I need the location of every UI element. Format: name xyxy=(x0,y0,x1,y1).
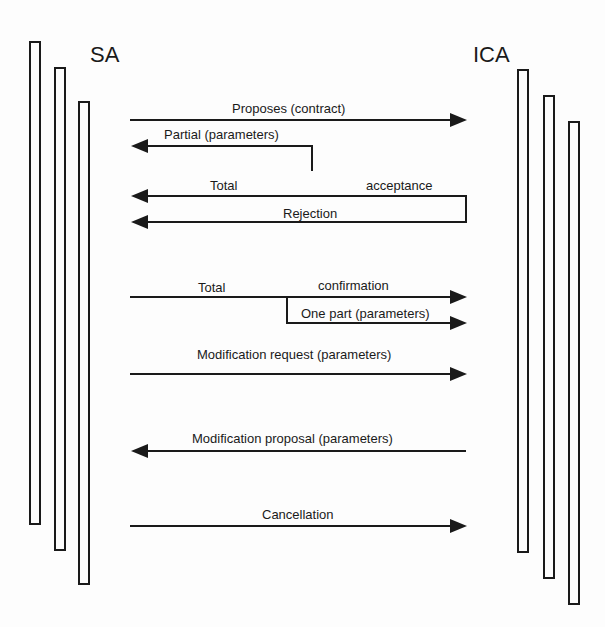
one-part-label: One part (parameters) xyxy=(301,306,430,321)
modification-request-label: Modification request (parameters) xyxy=(197,347,391,362)
modification-proposal-label: Modification proposal (parameters) xyxy=(192,431,393,446)
total-confirmation-right-label: confirmation xyxy=(318,278,389,293)
cancellation-label: Cancellation xyxy=(262,507,334,522)
sa-bar-3 xyxy=(79,102,89,584)
ica-bar-2 xyxy=(544,96,554,578)
arrowhead-left-icon xyxy=(131,215,148,229)
arrowhead-left-icon xyxy=(131,139,148,153)
arrowhead-left-icon xyxy=(131,189,148,203)
total-acceptance-right-label: acceptance xyxy=(366,178,433,193)
total-acceptance-arrow-line xyxy=(146,196,466,197)
arrowhead-right-icon xyxy=(450,316,467,330)
total-confirmation-left-label: Total xyxy=(198,280,226,295)
sa-bar-1 xyxy=(30,42,40,524)
ica-bar-1 xyxy=(518,70,528,552)
proposes-label: Proposes (contract) xyxy=(232,101,345,116)
arrowhead-left-icon xyxy=(131,444,148,458)
sa-bar-2 xyxy=(55,68,65,550)
ica-bar-3 xyxy=(569,122,579,604)
arrowhead-right-icon xyxy=(450,113,467,127)
ica-actor-label: ICA xyxy=(473,42,510,67)
arrowhead-right-icon xyxy=(450,290,467,304)
sa-actor-label: SA xyxy=(90,42,120,67)
partial-label: Partial (parameters) xyxy=(164,127,279,142)
ica-lifeline-bars xyxy=(518,70,579,604)
arrowhead-right-icon xyxy=(450,519,467,533)
rejection-label: Rejection xyxy=(283,206,337,221)
partial-arrow-line xyxy=(146,146,312,171)
sequence-diagram: SA ICA xyxy=(0,0,605,627)
total-acceptance-left-label: Total xyxy=(210,178,238,193)
arrowhead-right-icon xyxy=(450,367,467,381)
sa-lifeline-bars xyxy=(30,42,89,584)
